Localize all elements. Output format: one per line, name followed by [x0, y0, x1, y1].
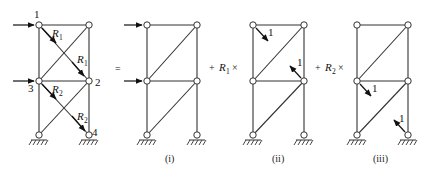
node-label-1: 1 — [34, 8, 40, 20]
svg-text:R: R — [218, 61, 226, 73]
caption-i: (i) — [165, 153, 174, 165]
unit-load-label: 1 — [399, 112, 405, 124]
caption-iii: (iii) — [373, 153, 388, 165]
node — [250, 22, 256, 28]
node — [194, 132, 200, 138]
unit-load-label: 1 — [297, 56, 303, 68]
pin-support-icon — [137, 140, 156, 145]
node-3 — [36, 78, 42, 84]
svg-text:R: R — [76, 110, 84, 122]
node — [194, 22, 200, 28]
svg-text:2: 2 — [84, 116, 88, 125]
node — [250, 132, 256, 138]
svg-text:+: + — [209, 62, 215, 73]
svg-text:1: 1 — [84, 59, 88, 68]
node-label-3: 3 — [28, 82, 34, 94]
frame-iii: 1 1 (iii) — [347, 22, 417, 165]
node — [405, 132, 411, 138]
node — [194, 78, 200, 84]
svg-text:×: × — [232, 62, 238, 73]
svg-text:R: R — [51, 27, 59, 39]
operator-plus-r1: + R 1 × — [209, 61, 238, 76]
node — [250, 78, 256, 84]
node-label-2: 2 — [95, 76, 101, 88]
pin-support-icon — [187, 140, 206, 145]
svg-text:R: R — [76, 53, 84, 65]
caption-ii: (ii) — [272, 153, 284, 165]
main-frame: 1 2 3 4 R 1 R 1 R 2 R 2 — [13, 8, 101, 145]
node-1 — [36, 22, 42, 28]
operator-plus-r2: + R 2 × — [315, 61, 344, 76]
node — [354, 132, 360, 138]
node — [405, 78, 411, 84]
unit-load-label: 1 — [372, 82, 378, 94]
equals-sign: = — [115, 63, 121, 74]
node — [354, 22, 360, 28]
node — [301, 132, 307, 138]
node — [36, 132, 42, 138]
unit-load-arrow-icon — [360, 84, 371, 96]
unit-load-arrow-icon — [256, 28, 268, 41]
node — [86, 22, 92, 28]
svg-text:2: 2 — [332, 67, 336, 76]
node — [144, 132, 150, 138]
frame-i: (i) — [124, 22, 206, 165]
svg-text:R: R — [324, 61, 332, 73]
node — [354, 78, 360, 84]
node — [301, 78, 307, 84]
svg-text:+: + — [315, 62, 321, 73]
node — [144, 78, 150, 84]
node — [144, 22, 150, 28]
frame-ii: 1 1 (ii) — [243, 22, 313, 165]
svg-text:R: R — [51, 83, 59, 95]
svg-text:×: × — [338, 62, 344, 73]
pin-support-icon — [79, 140, 98, 145]
pin-support-icon — [243, 140, 262, 145]
pin-support-icon — [347, 140, 366, 145]
node-2 — [86, 78, 92, 84]
svg-text:1: 1 — [59, 33, 63, 42]
pin-support-icon — [29, 140, 48, 145]
truss-superposition-diagram: 1 2 3 4 R 1 R 1 R 2 R 2 = — [0, 0, 435, 175]
node — [301, 22, 307, 28]
redundant-label-r1-bottom: R 1 — [76, 53, 88, 68]
svg-text:2: 2 — [59, 89, 63, 98]
node-label-4: 4 — [92, 126, 98, 138]
node — [405, 22, 411, 28]
pin-support-icon — [398, 140, 417, 145]
unit-load-label: 1 — [268, 26, 274, 38]
pin-support-icon — [294, 140, 313, 145]
svg-text:1: 1 — [226, 67, 230, 76]
